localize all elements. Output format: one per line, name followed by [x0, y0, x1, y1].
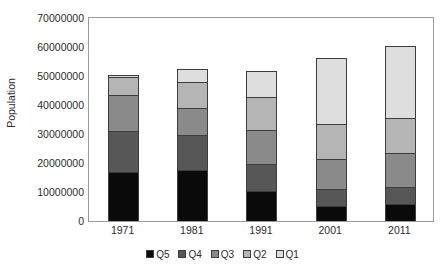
- plot-inner: [89, 18, 433, 221]
- legend-item-Q1[interactable]: Q1: [276, 249, 299, 260]
- x-axis-tick-label: 1981: [162, 224, 222, 236]
- legend-item-Q2[interactable]: Q2: [243, 249, 266, 260]
- legend-item-Q5[interactable]: Q5: [146, 249, 169, 260]
- legend-label: Q3: [221, 249, 234, 260]
- bar-segment-Q2[interactable]: [246, 97, 277, 130]
- stacked-bar[interactable]: [385, 46, 416, 221]
- stacked-bar[interactable]: [177, 69, 208, 221]
- stacked-bar[interactable]: [316, 58, 347, 221]
- bar-segment-Q3[interactable]: [177, 108, 208, 135]
- bar-segment-Q1[interactable]: [385, 46, 416, 118]
- bar-segment-Q2[interactable]: [177, 82, 208, 109]
- y-axis-tick-labels: 0100000002000000030000000400000005000000…: [10, 0, 84, 268]
- x-axis-tick-label: 2011: [369, 224, 429, 236]
- bar-segment-Q1[interactable]: [177, 69, 208, 82]
- bar-segment-Q3[interactable]: [246, 130, 277, 164]
- x-axis-tick-label: 1991: [231, 224, 291, 236]
- bar-segment-Q4[interactable]: [177, 135, 208, 170]
- legend-item-Q4[interactable]: Q4: [178, 249, 201, 260]
- plot-area: [88, 17, 434, 222]
- legend-label: Q2: [253, 249, 266, 260]
- bar-segment-Q1[interactable]: [316, 58, 347, 125]
- y-axis-tick-label: 30000000: [10, 129, 84, 139]
- bar-segment-Q4[interactable]: [385, 187, 416, 204]
- stacked-bar[interactable]: [108, 75, 139, 221]
- bar-group-2011: [366, 18, 435, 221]
- bar-segment-Q5[interactable]: [246, 191, 277, 221]
- bar-segment-Q5[interactable]: [108, 172, 139, 221]
- bar-group-1971: [89, 18, 158, 221]
- bar-segment-Q3[interactable]: [385, 153, 416, 188]
- bar-segment-Q5[interactable]: [385, 204, 416, 221]
- y-axis-tick-label: 50000000: [10, 71, 84, 81]
- bar-segment-Q5[interactable]: [177, 170, 208, 221]
- bar-group-1991: [227, 18, 296, 221]
- bar-segment-Q2[interactable]: [108, 77, 139, 94]
- bar-segment-Q2[interactable]: [385, 118, 416, 153]
- x-axis-tick-label: 2001: [300, 224, 360, 236]
- bar-segment-Q4[interactable]: [108, 131, 139, 172]
- bar-segment-Q2[interactable]: [316, 124, 347, 159]
- legend-swatch-icon: [178, 250, 186, 258]
- y-axis-tick-label: 70000000: [10, 13, 84, 23]
- legend-swatch-icon: [276, 250, 284, 258]
- y-axis-tick-label: 20000000: [10, 158, 84, 168]
- bar-segment-Q1[interactable]: [246, 71, 277, 97]
- stacked-bar[interactable]: [246, 71, 277, 221]
- legend-swatch-icon: [211, 250, 219, 258]
- bar-segment-Q4[interactable]: [246, 164, 277, 191]
- stacked-bar-chart: Population 01000000020000000300000004000…: [0, 0, 445, 268]
- bar-segment-Q3[interactable]: [108, 95, 139, 131]
- y-axis-tick-label: 10000000: [10, 187, 84, 197]
- legend-label: Q4: [188, 249, 201, 260]
- bar-group-1981: [158, 18, 227, 221]
- bar-segment-Q4[interactable]: [316, 189, 347, 206]
- x-axis-tick-labels: 19711981199120012011: [88, 224, 434, 240]
- y-axis-tick-label: 0: [10, 216, 84, 226]
- legend-item-Q3[interactable]: Q3: [211, 249, 234, 260]
- legend-label: Q5: [156, 249, 169, 260]
- legend-swatch-icon: [243, 250, 251, 258]
- chart-legend: Q5Q4Q3Q2Q1: [0, 246, 445, 262]
- y-axis-tick-label: 60000000: [10, 42, 84, 52]
- x-axis-tick-label: 1971: [93, 224, 153, 236]
- y-axis-tick-label: 40000000: [10, 100, 84, 110]
- legend-swatch-icon: [146, 250, 154, 258]
- bar-segment-Q3[interactable]: [316, 159, 347, 189]
- bar-segment-Q5[interactable]: [316, 206, 347, 221]
- bar-group-2001: [297, 18, 366, 221]
- legend-label: Q1: [286, 249, 299, 260]
